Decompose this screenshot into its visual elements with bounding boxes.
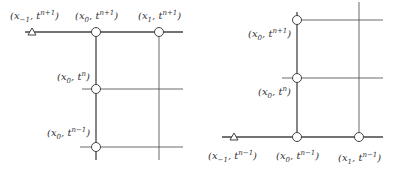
node-circle-icon — [293, 16, 302, 25]
label-x1-t-np1: (x1, tn+1) — [138, 10, 181, 24]
node-circle-icon — [92, 143, 101, 152]
label-x0-t-nm1-right: (x0, tn−1) — [276, 150, 319, 164]
label-x-minus1-t-nm1-right: (x−1, tn−1) — [208, 150, 257, 164]
label-x-minus1-t-np1: (x−1, tn+1) — [10, 10, 59, 24]
node-circle-icon — [92, 28, 101, 37]
label-x1-t-nm1-right: (x1, tn−1) — [338, 152, 381, 166]
label-x0-t-np1-right: (x0, tn+1) — [248, 28, 291, 42]
right-stencil-grid — [222, 2, 383, 142]
stencil-diagrams — [0, 0, 399, 175]
node-circle-icon — [293, 74, 302, 83]
node-circle-icon — [355, 133, 364, 142]
node-circle-icon — [155, 28, 164, 37]
node-circle-icon — [92, 85, 101, 94]
label-x0-t-nm1: (x0, tn−1) — [47, 127, 90, 141]
node-circle-icon — [293, 133, 302, 142]
label-x0-t-np1: (x0, tn+1) — [75, 10, 118, 24]
label-x0-t-n: (x0, tn) — [57, 71, 90, 85]
label-x0-t-n-right: (x0, tn) — [258, 86, 291, 100]
